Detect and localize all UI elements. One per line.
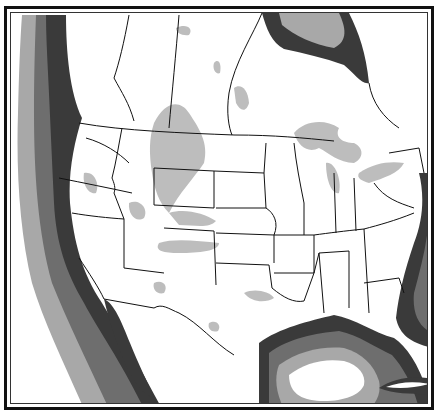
political-boundaries bbox=[59, 13, 424, 355]
map-canvas: North America shaded zone map bbox=[10, 12, 428, 404]
map-frame: North America shaded zone map bbox=[4, 6, 434, 410]
north-america-map bbox=[11, 13, 428, 404]
